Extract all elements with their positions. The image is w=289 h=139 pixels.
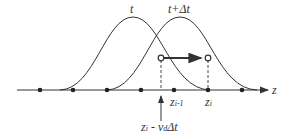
advection-diagram: t t+Δt z zi-1 zi zi - vdΔt [0, 0, 289, 139]
departure-point [158, 55, 164, 61]
arrival-point [205, 55, 211, 61]
label-departure-point: zi - vdΔt [141, 121, 178, 135]
curve-t-dt [107, 17, 257, 90]
label-z-i: zi [205, 96, 212, 110]
label-t-plus-dt: t+Δt [168, 3, 190, 15]
label-z-i-minus-1: zi-1 [170, 96, 184, 110]
curve-t [60, 17, 210, 90]
label-z-axis: z [272, 84, 277, 96]
diagram-graphic [0, 0, 289, 139]
label-t: t [130, 3, 133, 15]
